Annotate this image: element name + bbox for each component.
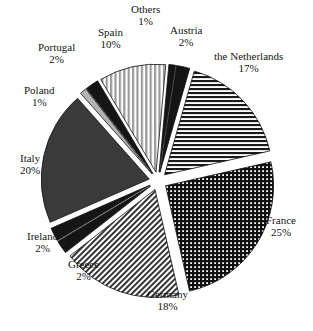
pie-label-name-spain: Spain [98,27,123,39]
pie-label-the-netherlands: the Netherlands17% [214,51,283,74]
pie-label-name-italy: Italy [20,153,40,165]
pie-label-france: France25% [266,215,296,238]
pie-label-name-austria: Austria [170,25,202,37]
pie-label-percent-the-netherlands: 17% [214,63,283,75]
pie-label-name-france: France [266,215,296,227]
pie-slice-france[interactable] [166,162,274,291]
pie-label-percent-france: 25% [266,227,296,239]
pie-label-percent-germany: 18% [147,301,188,313]
pie-label-percent-portugal: 2% [38,54,75,66]
pie-label-poland: Poland1% [24,85,55,108]
pie-label-germany: Germany18% [147,289,188,312]
pie-label-percent-italy: 20% [20,165,40,177]
pie-label-name-ireland: Ireland [27,231,58,243]
pie-label-percent-others: 1% [131,16,160,28]
pie-label-name-greece: Greece [68,259,99,271]
pie-label-percent-poland: 1% [24,97,55,109]
pie-label-italy: Italy20% [20,153,40,176]
pie-label-greece: Greece2% [68,259,99,282]
pie-label-others: Others1% [131,4,160,27]
pie-label-name-the-netherlands: the Netherlands [214,51,283,63]
pie-label-percent-spain: 10% [98,39,123,51]
pie-label-name-portugal: Portugal [38,42,75,54]
pie-label-portugal: Portugal2% [38,42,75,65]
pie-chart: the Netherlands17%France25%Germany18%Gre… [0,0,313,331]
pie-label-percent-ireland: 2% [27,243,58,255]
pie-label-name-others: Others [131,4,160,16]
pie-label-ireland: Ireland2% [27,231,58,254]
pie-label-name-germany: Germany [147,289,188,301]
pie-label-austria: Austria2% [170,25,202,48]
pie-label-percent-greece: 2% [68,271,99,283]
pie-label-percent-austria: 2% [170,37,202,49]
pie-label-spain: Spain10% [98,27,123,50]
pie-label-name-poland: Poland [24,85,55,97]
